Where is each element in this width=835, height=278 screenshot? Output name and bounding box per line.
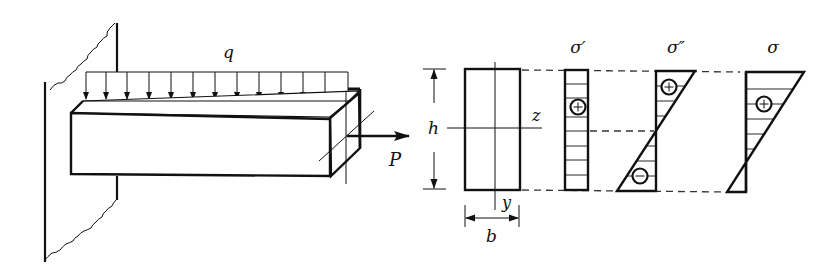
combined-stress-outline xyxy=(727,72,804,192)
stress-diagram-bending: σ″ xyxy=(617,37,695,191)
load-label-q: q xyxy=(223,42,234,62)
stress-diagram-combined: σ xyxy=(727,37,804,192)
distributed-load: q xyxy=(86,42,348,99)
stress-diagram-axial: σ′ xyxy=(565,37,588,190)
cross-section-rect xyxy=(465,69,520,190)
cross-section: z y h b xyxy=(423,62,542,246)
wall-wavy-edge-top xyxy=(50,23,115,90)
y-axis-label: y xyxy=(501,193,512,212)
plus-sign-icon xyxy=(662,80,677,95)
projection-line-top xyxy=(522,70,740,72)
combined-stress-label: σ xyxy=(767,37,779,57)
height-label-h: h xyxy=(428,118,439,138)
axial-stress-block xyxy=(565,70,588,190)
wall-wavy-edge-bottom xyxy=(44,200,116,261)
height-dimension: h xyxy=(423,69,446,189)
plus-sign-icon xyxy=(757,97,772,112)
beam-front-face xyxy=(71,113,330,176)
minus-sign-icon xyxy=(633,169,648,184)
axial-stress-label: σ′ xyxy=(570,37,586,57)
plus-sign-icon xyxy=(571,100,586,115)
figure-canvas: q P z y h xyxy=(0,0,835,278)
z-axis-label: z xyxy=(531,106,541,125)
bending-stress-label: σ″ xyxy=(667,37,686,57)
cantilever-beam xyxy=(71,89,374,184)
width-label-b: b xyxy=(486,226,497,246)
axial-force-label-p: P xyxy=(388,149,402,170)
